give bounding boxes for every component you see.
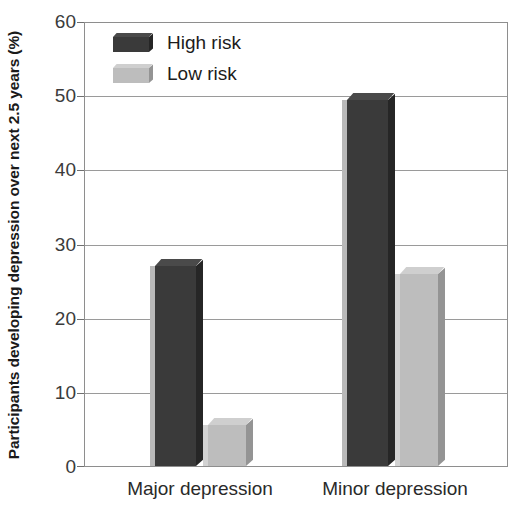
- bar-chart-figure: Participants developing depression over …: [0, 0, 520, 517]
- swatch-front-face: [113, 37, 149, 52]
- tick-mark: [77, 319, 84, 320]
- gridline-40: [85, 170, 507, 171]
- gridline-30: [85, 245, 507, 246]
- swatch-side-face: [149, 33, 153, 52]
- swatch-side-face: [149, 64, 153, 83]
- bar-minor-depression-low-risk: [400, 274, 438, 466]
- bar-side-face: [438, 267, 445, 466]
- y-tick-label: 20: [32, 308, 76, 330]
- bar-top-face: [347, 93, 394, 100]
- plot-area: High risk Low risk: [84, 22, 508, 467]
- dark-swatch-icon: [113, 33, 153, 52]
- tick-mark: [77, 393, 84, 394]
- tick-mark: [77, 22, 84, 23]
- y-tick-label: 40: [32, 159, 76, 181]
- legend-entry-high-risk: High risk: [113, 27, 323, 58]
- y-axis-tick-labels: 60 50 40 30 20 10 0: [30, 0, 76, 517]
- bar-major-depression-low-risk: [208, 425, 246, 466]
- x-category-label-major: Major depression: [110, 478, 290, 500]
- tick-mark: [77, 466, 84, 467]
- y-tick-label: 50: [32, 85, 76, 107]
- gridline-50: [85, 96, 507, 97]
- legend-label: Low risk: [167, 63, 237, 85]
- bar-side-face: [388, 93, 395, 466]
- light-swatch-icon: [113, 64, 153, 83]
- x-category-label-minor: Minor depression: [305, 478, 485, 500]
- y-tick-label: 10: [32, 382, 76, 404]
- bar-front-face: [208, 425, 246, 466]
- tick-mark: [77, 245, 84, 246]
- bar-front-face: [347, 100, 388, 466]
- bar-major-depression-high-risk: [155, 266, 196, 466]
- swatch-front-face: [113, 68, 149, 83]
- y-axis-title: Participants developing depression over …: [0, 0, 28, 490]
- bar-front-face: [155, 266, 196, 466]
- y-tick-label: 30: [32, 234, 76, 256]
- y-tick-label: 60: [32, 11, 76, 33]
- tick-mark: [77, 96, 84, 97]
- bar-side-face: [196, 260, 203, 466]
- bar-minor-depression-high-risk: [347, 100, 388, 466]
- legend-entry-low-risk: Low risk: [113, 58, 323, 89]
- chart-legend: High risk Low risk: [113, 27, 323, 89]
- bar-front-face: [400, 274, 438, 466]
- y-tick-label: 0: [32, 456, 76, 478]
- legend-label: High risk: [167, 32, 241, 54]
- bar-side-face: [246, 419, 253, 466]
- tick-mark: [77, 170, 84, 171]
